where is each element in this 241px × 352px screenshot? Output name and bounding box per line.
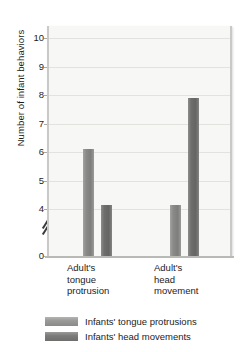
gridline <box>49 95 230 96</box>
y-axis-ticks: 045678910 <box>18 0 44 352</box>
y-tick-label: 5 <box>22 176 44 186</box>
x-axis-category-line: tongue <box>67 274 145 286</box>
chart-figure: Number of infant behaviors 045678910 Adu… <box>0 0 241 352</box>
x-axis-category-line: movement <box>154 285 232 297</box>
gridline <box>49 152 230 153</box>
x-axis-category-line: Adult's <box>67 262 145 274</box>
bar <box>83 149 94 256</box>
x-axis-category-label: Adult'sheadmovement <box>154 262 232 297</box>
legend-label: Infants' tongue protrusions <box>85 316 197 327</box>
gridline <box>49 38 230 39</box>
y-tick-label: 9 <box>22 62 44 72</box>
gridline <box>49 181 230 182</box>
y-tick-label: 7 <box>22 119 44 129</box>
chart-legend: Infants' tongue protrusionsInfants' head… <box>45 314 241 344</box>
legend-item: Infants' head movements <box>45 329 241 344</box>
legend-label: Infants' head movements <box>85 331 191 342</box>
x-axis-category-label: Adult'stongueprotrusion <box>67 262 145 297</box>
legend-swatch <box>45 332 78 341</box>
y-tick-label: 10 <box>22 33 44 43</box>
legend-swatch <box>45 317 78 326</box>
plot-area <box>47 26 232 256</box>
x-axis-category-line: protrusion <box>67 285 145 297</box>
plot-inner <box>49 26 230 256</box>
x-axis-category-line: Adult's <box>154 262 232 274</box>
y-tick-label: 8 <box>22 90 44 100</box>
bar <box>170 205 181 256</box>
bar <box>101 205 112 256</box>
y-tick-label: 0 <box>22 251 44 261</box>
bar <box>188 98 199 256</box>
gridline <box>49 209 230 210</box>
y-tick-label: 6 <box>22 147 44 157</box>
x-axis-category-line: head <box>154 274 232 286</box>
y-tick-label: 4 <box>22 204 44 214</box>
x-axis-line <box>45 256 234 258</box>
legend-item: Infants' tongue protrusions <box>45 314 241 329</box>
gridline <box>49 67 230 68</box>
gridline <box>49 124 230 125</box>
